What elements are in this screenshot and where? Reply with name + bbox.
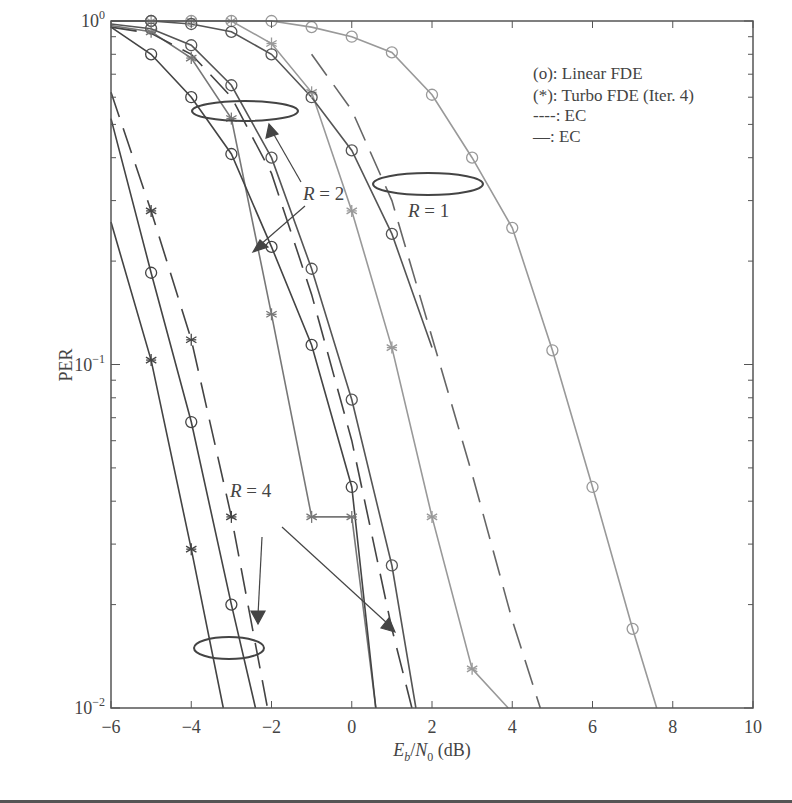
- series-line: [111, 21, 432, 348]
- star-marker-icon: [427, 511, 437, 523]
- y-tick-labels: 10010−110−2: [74, 8, 105, 718]
- arrowhead-icon: [266, 124, 278, 138]
- plot-frame: [111, 21, 753, 708]
- series-line: [111, 27, 412, 708]
- series-line: [111, 21, 508, 708]
- x-tick-label: 2: [428, 717, 437, 737]
- star-marker-icon: [266, 308, 276, 320]
- r2-arrow-down: [260, 206, 305, 245]
- label-r2: R = 2: [302, 183, 344, 204]
- x-tick-label: −6: [101, 717, 120, 737]
- arrowhead-icon: [251, 611, 265, 624]
- series-line: [111, 119, 256, 708]
- series-line: [111, 26, 376, 709]
- x-axis-label: Eb/N0 (dB): [392, 740, 471, 764]
- y-tick-label: 10−2: [74, 695, 105, 718]
- r4-arrow-down: [258, 537, 262, 615]
- x-tick-label: 4: [508, 717, 517, 737]
- star-marker-icon: [347, 205, 357, 217]
- series-line: [111, 222, 223, 708]
- label-r4: R = 4: [229, 480, 272, 501]
- r4-ellipse: [194, 637, 264, 659]
- star-marker-icon: [306, 511, 316, 523]
- per-vs-ebn0-chart: (o): Linear FDE (*): Turbo FDE (Iter. 4)…: [0, 0, 792, 803]
- x-tick-label: 6: [588, 717, 597, 737]
- star-marker-icon: [146, 354, 156, 366]
- star-marker-icon: [387, 342, 397, 354]
- legend-entry-ec-dashed: ----: EC: [533, 106, 586, 125]
- arrowhead-icon: [253, 240, 268, 252]
- x-tick-label: 10: [744, 717, 762, 737]
- x-tick-label: −4: [182, 717, 201, 737]
- legend-entry-ec-solid: —: EC: [532, 127, 581, 146]
- legend-entry-linear: (o): Linear FDE: [533, 64, 643, 83]
- x-tick-label: 8: [668, 717, 677, 737]
- x-tick-label: −2: [262, 717, 281, 737]
- x-tick-labels: −6−4−20246810: [101, 717, 762, 737]
- legend-entry-turbo: (*): Turbo FDE (Iter. 4): [533, 86, 694, 105]
- label-r1: R = 1: [407, 200, 449, 221]
- y-tick-label: 100: [81, 8, 105, 31]
- star-marker-icon: [146, 205, 156, 217]
- x-tick-label: 0: [347, 717, 356, 737]
- r4-arrow-diag: [282, 527, 388, 624]
- r1-ellipse: [373, 173, 483, 195]
- star-marker-icon: [226, 511, 236, 523]
- legend: (o): Linear FDE (*): Turbo FDE (Iter. 4)…: [532, 64, 694, 146]
- y-axis-label: PER: [56, 348, 76, 381]
- series-line: [111, 24, 416, 708]
- y-tick-label: 10−1: [74, 352, 105, 375]
- tick-layer: [111, 21, 753, 708]
- star-marker-icon: [186, 543, 196, 555]
- plot-canvas: (o): Linear FDE (*): Turbo FDE (Iter. 4)…: [0, 0, 792, 803]
- star-marker-icon: [186, 334, 196, 346]
